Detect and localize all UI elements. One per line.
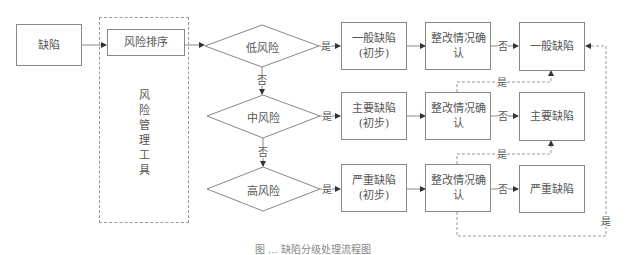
final-label: 主要缺陷: [530, 109, 574, 124]
tool-title-char: 理: [137, 133, 151, 148]
check-label-cont: 认: [453, 188, 464, 203]
check-label-cont: 认: [453, 116, 464, 131]
risk-ranking-label: 风险排序: [124, 35, 168, 50]
decision-medium-risk: 中风险: [233, 109, 293, 125]
no-label-medium: 否: [258, 147, 268, 158]
figure-caption: 图 … 缺陷分级处理流程图: [0, 241, 626, 255]
yes-label-row2-feedback: 是: [497, 77, 507, 88]
initial-sublabel: (初步): [359, 188, 390, 203]
tool-title-char: 险: [137, 103, 151, 118]
severe-defect-final-box: 严重缺陷: [519, 165, 585, 213]
no-label-check-2: 否: [498, 111, 508, 122]
major-defect-final-box: 主要缺陷: [519, 92, 585, 141]
initial-sublabel: (初步): [359, 116, 390, 131]
major-defect-initial-box: 主要缺陷 (初步): [341, 92, 407, 140]
yes-label-high: 是: [322, 184, 332, 195]
initial-sublabel: (初步): [359, 46, 390, 61]
initial-label: 一般缺陷: [352, 31, 396, 46]
general-defect-initial-box: 一般缺陷 (初步): [341, 22, 407, 70]
defect-start-label: 缺陷: [38, 38, 60, 53]
rectification-check-box-3: 整改情况确 认: [425, 164, 491, 212]
final-label: 严重缺陷: [530, 182, 574, 197]
final-label: 一般缺陷: [530, 39, 574, 54]
general-defect-final-box: 一般缺陷: [519, 22, 585, 71]
check-label: 整改情况确: [431, 31, 486, 46]
no-label-check-1: 否: [498, 41, 508, 52]
decision-high-risk: 高风险: [233, 182, 293, 198]
risk-ranking-box: 风险排序: [107, 29, 185, 56]
yes-label-medium: 是: [322, 111, 332, 122]
initial-label: 主要缺陷: [352, 101, 396, 116]
initial-label: 严重缺陷: [352, 173, 396, 188]
severe-defect-initial-box: 严重缺陷 (初步): [341, 164, 407, 212]
check-label-cont: 认: [453, 46, 464, 61]
no-label-check-3: 否: [498, 184, 508, 195]
yes-label-row3-feedback: 是: [497, 149, 507, 160]
tool-title-char: 工: [137, 148, 151, 163]
decision-low-risk: 低风险: [232, 39, 292, 55]
rectification-check-box-1: 整改情况确 认: [425, 22, 491, 70]
risk-management-tool-title: 风 险 管 理 工 具: [137, 88, 151, 178]
tool-title-char: 风: [137, 88, 151, 103]
check-label: 整改情况确: [431, 101, 486, 116]
tool-title-char: 管: [137, 118, 151, 133]
rectification-check-box-2: 整改情况确 认: [425, 92, 491, 140]
yes-label-row3-to-row1: 是: [601, 216, 611, 227]
tool-title-char: 具: [137, 163, 151, 178]
check-label: 整改情况确: [431, 173, 486, 188]
yes-label-low: 是: [321, 41, 331, 52]
no-label-low: 否: [257, 75, 267, 86]
defect-start-box: 缺陷: [16, 24, 82, 66]
